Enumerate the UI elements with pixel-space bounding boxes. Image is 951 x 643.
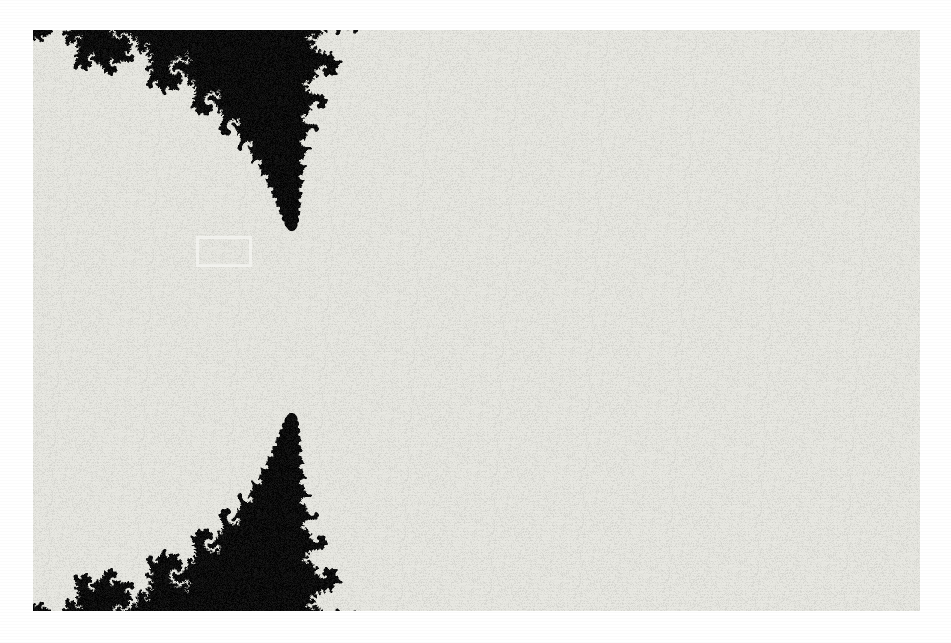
mandelbrot-canvas [33, 30, 920, 611]
figure-root [0, 0, 951, 643]
fractal-plate [33, 30, 920, 611]
